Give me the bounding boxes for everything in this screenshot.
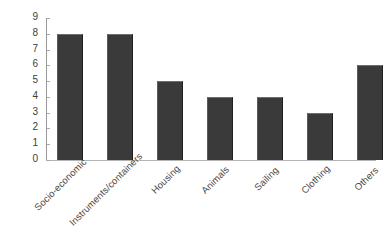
y-axis-tick-mark (47, 50, 50, 51)
y-axis-tick-label: 6 (32, 58, 38, 69)
y-axis-tick-label: 3 (32, 106, 38, 117)
bar (207, 97, 233, 160)
y-axis-tick-mark (47, 128, 50, 129)
y-axis-tick-mark (47, 97, 50, 98)
bar (157, 81, 183, 160)
y-axis-tick-mark (47, 34, 50, 35)
bar (307, 113, 333, 160)
y-axis-tick-label: 9 (32, 11, 38, 22)
y-axis-tick-mark (47, 160, 50, 161)
x-axis-label: Clothing (299, 163, 332, 196)
y-axis-tick-label: 2 (32, 121, 38, 132)
y-axis-tick-mark (47, 113, 50, 114)
x-axis-label: Animals (199, 163, 231, 195)
x-axis-label: Socio-economic (32, 156, 89, 213)
y-axis-line (46, 18, 47, 161)
y-axis-tick-label: 1 (32, 137, 38, 148)
y-axis-tick-mark (47, 81, 50, 82)
y-axis-tick-label: 8 (32, 27, 38, 38)
bar-chart: 0123456789 Socio-economicInstruments/con… (0, 0, 390, 250)
y-axis-tick-mark (47, 144, 50, 145)
y-axis-tick-label: 4 (32, 90, 38, 101)
x-axis-label: Housing (149, 163, 182, 196)
x-axis-label: Sailing (252, 164, 280, 192)
bar (57, 34, 83, 160)
bar (107, 34, 133, 160)
y-axis-tick-label: 0 (32, 153, 38, 164)
y-axis-tick-mark (47, 65, 50, 66)
y-axis-tick-label: 5 (32, 74, 38, 85)
bar (357, 65, 383, 160)
plot-area: 0123456789 Socio-economicInstruments/con… (0, 0, 390, 250)
bar (257, 97, 283, 160)
y-axis-tick-mark (47, 18, 50, 19)
x-axis-label: Others (352, 164, 380, 192)
y-axis-tick-label: 7 (32, 43, 38, 54)
x-axis-baseline (46, 160, 376, 161)
